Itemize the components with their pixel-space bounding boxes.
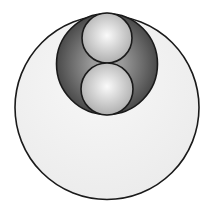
nested-circles-diagram: [0, 0, 206, 210]
inner-circle-top: [82, 13, 132, 63]
inner-circle-bottom: [81, 63, 133, 115]
